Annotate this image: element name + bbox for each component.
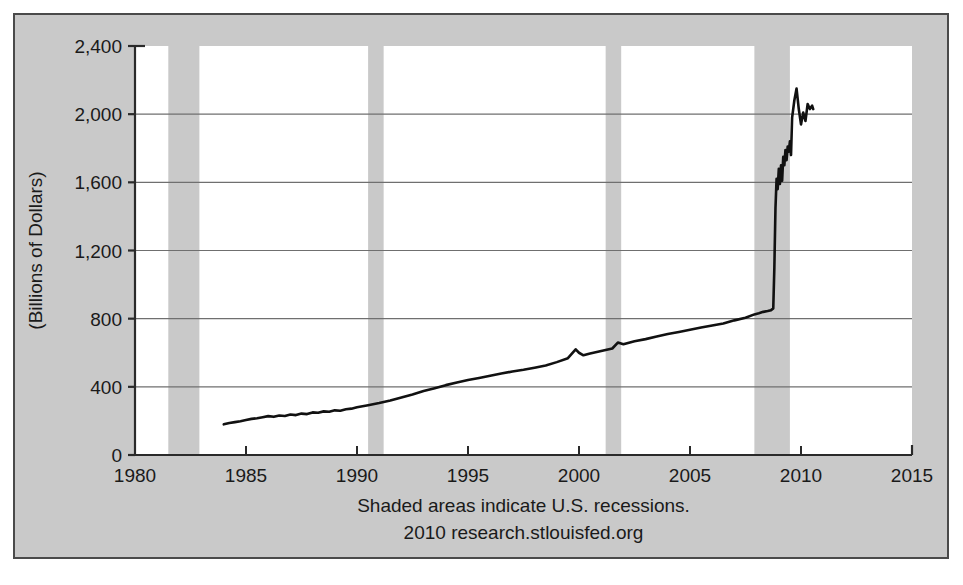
chart-figure: 04008001,2001,6002,0002,4001980198519901… — [0, 0, 963, 585]
chart-frame — [13, 13, 949, 559]
